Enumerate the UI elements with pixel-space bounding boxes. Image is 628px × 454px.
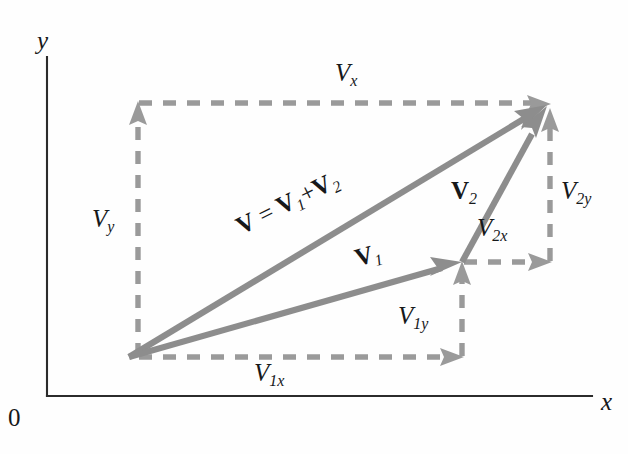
vector-diagram-figure: y x 0 Vx Vy V1x V1y V2x V2y V1 V2 V = V1… xyxy=(0,0,628,454)
v2-vector-label-base: V xyxy=(451,177,469,204)
vx-label-subscript: x xyxy=(350,72,357,89)
axes-group xyxy=(47,57,592,396)
v1x-label-base: V xyxy=(254,359,269,386)
v1y-label-subscript: 1y xyxy=(413,315,428,332)
v2-vector-label-subscript: 2 xyxy=(469,190,477,207)
v1y-label: V1y xyxy=(398,303,428,328)
x-axis-label: x xyxy=(601,389,612,414)
y-axis-label: y xyxy=(37,28,48,53)
v1x-label-subscript: 1x xyxy=(269,372,284,389)
v1x-label: V1x xyxy=(254,360,284,385)
origin-label: 0 xyxy=(8,405,21,430)
vy-label-subscript: y xyxy=(107,218,114,235)
v1y-label-base: V xyxy=(398,302,413,329)
v2y-label-base: V xyxy=(561,177,576,204)
v2x-label-base: V xyxy=(477,214,492,241)
resultant-vector-shaft xyxy=(129,117,527,357)
vy-label: Vy xyxy=(92,206,114,231)
vy-label-base: V xyxy=(92,205,107,232)
v2x-label-subscript: 2x xyxy=(492,227,507,244)
v2y-label-subscript: 2y xyxy=(576,190,591,207)
v1-vector-shaft xyxy=(129,268,442,357)
vx-label: Vx xyxy=(335,60,357,85)
v2x-label: V2x xyxy=(477,215,507,240)
v1-vector-head xyxy=(430,257,462,276)
vx-label-base: V xyxy=(335,59,350,86)
v2-vector-label: V2 xyxy=(451,178,477,203)
v2y-label: V2y xyxy=(561,178,591,203)
